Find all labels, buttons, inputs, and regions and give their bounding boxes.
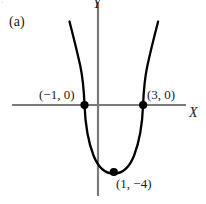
parabola-plot [0, 0, 206, 204]
point-vertex [110, 168, 118, 176]
annotation-root-left: (−1, 0) [39, 88, 75, 101]
figure-panel: · (a) X Y (−1, 0) (3, 0) (1, −4) [0, 0, 206, 204]
marked-points-group [80, 101, 147, 176]
y-axis-label: Y [93, 0, 101, 11]
annotation-root-right: (3, 0) [147, 88, 175, 101]
point-root-left [80, 101, 88, 109]
parabola-curve [70, 22, 159, 174]
point-root-right [139, 101, 147, 109]
x-axis-label: X [189, 106, 198, 120]
annotation-vertex: (1, −4) [116, 177, 152, 190]
panel-label: (a) [9, 15, 25, 29]
curve-group [70, 22, 159, 174]
